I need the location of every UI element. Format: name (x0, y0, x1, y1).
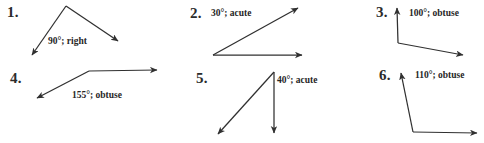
angle-6-ray-right (413, 132, 477, 133)
problem-1-annotation: 90°; right (48, 37, 87, 47)
problem-3-annotation: 100°; obtuse (409, 9, 459, 19)
problem-2-annotation: 30°; acute (211, 9, 251, 19)
angle-3-ray-up (397, 8, 398, 43)
problem-1-number: 1. (7, 5, 19, 20)
problem-6-annotation: 110°; obtuse (415, 71, 464, 81)
angle-figures-layer (0, 0, 484, 143)
problem-5-annotation: 40°; acute (277, 76, 317, 86)
problem-5-number: 5. (196, 71, 208, 86)
problem-4-number: 4. (10, 71, 22, 86)
angle-1-ray-down-left (32, 6, 66, 55)
angle-3-ray-right-down (398, 43, 463, 55)
angle-6-ray-up-left (401, 73, 413, 132)
worksheet-page: 1. 90°; right 2. 30°; acute 3. 100°; obt… (0, 0, 484, 143)
problem-4-annotation: 155°; obtuse (72, 91, 122, 101)
figure-angle-1 (32, 6, 118, 55)
angle-5-ray-down-left (218, 72, 274, 134)
problem-6-number: 6. (379, 68, 391, 83)
figure-angle-6 (401, 73, 477, 133)
figure-angle-5 (218, 72, 274, 134)
angle-4-ray-right (89, 70, 157, 71)
angle-figures-svg (0, 0, 484, 143)
problem-3-number: 3. (376, 5, 388, 20)
problem-2-number: 2. (190, 6, 202, 21)
